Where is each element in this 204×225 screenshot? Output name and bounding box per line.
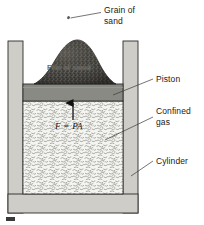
physics-figure: Grain of sand Pile of sand F = PA Piston… <box>0 0 204 225</box>
grain-of-sand-marker <box>67 13 101 20</box>
sand-pile <box>34 40 116 84</box>
label-confined-gas: Confined gas <box>156 106 191 127</box>
label-grain-of-sand: Grain of sand <box>104 5 135 26</box>
label-cylinder: Cylinder <box>156 156 188 167</box>
force-equation: F = PA <box>55 121 83 131</box>
label-piston: Piston <box>156 74 180 85</box>
piston-element <box>23 84 123 101</box>
figure-caption-mark <box>6 217 15 221</box>
label-pile-of-sand: Pile of sand <box>47 63 91 72</box>
